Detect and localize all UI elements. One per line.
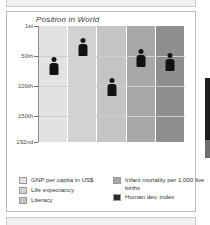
legend-item[interactable]: GNP per capita in US$ [19, 176, 111, 184]
legend-item[interactable]: Infant mortality per 1,000 live births [113, 176, 209, 191]
legend-swatch-icon [113, 177, 121, 184]
y-tick-1st [34, 26, 38, 27]
legend-swatch-icon [19, 177, 27, 184]
y-tick-100th [34, 86, 38, 87]
legend-label: Infant mortality per 1,000 live births [125, 176, 209, 191]
legend-label: Life expectancy [31, 186, 74, 194]
y-tick-50th [34, 56, 38, 57]
legend-swatch-icon [19, 197, 27, 204]
page-root: Position in World 1st50th100th150th192nd… [0, 0, 210, 225]
legend-label: GNP per capita in US$ [31, 176, 93, 184]
legend-swatch-icon [19, 187, 27, 194]
y-tick-label-100th: 100th [18, 83, 33, 89]
legend-column-left: GNP per capita in US$Life expectancyLite… [19, 176, 111, 206]
y-axis: 1st50th100th150th192nd [38, 26, 184, 142]
chart-legend: GNP per capita in US$Life expectancyLite… [13, 176, 207, 216]
bottom-partial-strip [6, 217, 196, 225]
y-tick-192nd [34, 142, 38, 143]
legend-item[interactable]: Human dev. index [113, 193, 209, 201]
legend-item[interactable]: Literacy [19, 196, 111, 204]
legend-item[interactable]: Life expectancy [19, 186, 111, 194]
right-edge-dark-bar [205, 78, 210, 140]
right-edge-elements [204, 0, 210, 225]
y-tick-label-192nd: 192nd [16, 139, 33, 145]
legend-column-right: Infant mortality per 1,000 live birthsHu… [113, 176, 209, 203]
legend-label: Literacy [31, 196, 53, 204]
y-tick-label-150th: 150th [18, 113, 33, 119]
chart-figure: Position in World 1st50th100th150th192nd… [6, 11, 196, 212]
y-tick-150th [34, 116, 38, 117]
top-partial-strip [6, 0, 196, 7]
right-edge-gray-bar [205, 140, 210, 158]
legend-swatch-icon [113, 194, 121, 201]
y-tick-label-1st: 1st [25, 23, 33, 29]
y-tick-label-50th: 50th [21, 53, 33, 59]
chart-title: Position in World [36, 15, 99, 24]
legend-label: Human dev. index [125, 193, 174, 201]
